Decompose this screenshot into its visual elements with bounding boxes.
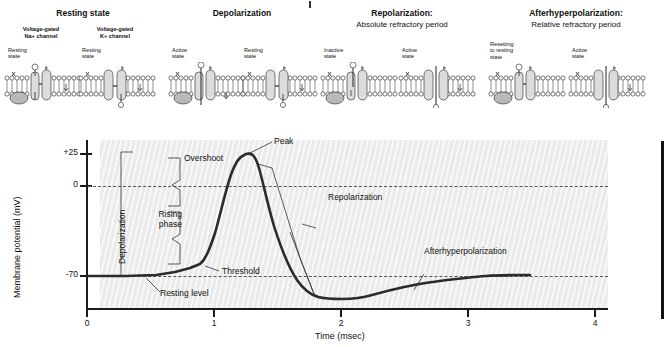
panel-subtitle: Absolute refractory period xyxy=(318,19,486,30)
channel-name-k: Voltage-gated K+ channel xyxy=(82,26,148,39)
membrane-diagram-na xyxy=(320,62,398,108)
page-edge-bar xyxy=(661,141,664,319)
membrane-diagram-na xyxy=(488,62,566,108)
state-label-k: Active state xyxy=(572,47,587,60)
panel-resting-state: Resting state Voltage-gated Na+ channel … xyxy=(0,0,166,128)
state-label-na: Inactive state xyxy=(324,47,343,60)
panel-title: Resting state xyxy=(0,8,166,19)
state-label-na: Active state xyxy=(172,47,187,60)
curve-and-annotation-layer xyxy=(0,128,666,347)
state-label-na: Resetting to resting state xyxy=(490,41,514,60)
membrane-diagram-na xyxy=(168,62,246,108)
state-label-k: Resting state xyxy=(244,47,263,60)
annotation-peak: Peak xyxy=(274,136,293,146)
channel-name-na: Voltage-gated Na+ channel xyxy=(8,26,74,39)
annotation-overshoot: Overshoot xyxy=(184,153,223,163)
state-label-k: Resting state xyxy=(82,47,101,60)
panel-title: Depolarization xyxy=(166,8,318,19)
annotation-repolarization: Repolarization xyxy=(328,192,382,202)
membrane-diagram-k xyxy=(78,62,156,108)
annotation-resting-level: Resting level xyxy=(160,288,209,298)
panel-afterhyperpolarization: Afterhyperpolarization: Relative refract… xyxy=(486,0,666,128)
membrane-diagram-k xyxy=(568,62,646,108)
annotation-threshold: Threshold xyxy=(222,266,260,276)
action-potential-chart: Membrane potential (mV) +25 0 -70 0 1 2 … xyxy=(0,128,666,347)
state-label-k: Active state xyxy=(402,47,417,60)
panel-subtitle: Relative refractory period xyxy=(486,19,666,30)
state-label-na: Resting state xyxy=(8,47,27,60)
membrane-diagram-k xyxy=(398,62,476,108)
annotation-depolarization: Depolarization xyxy=(117,210,127,264)
membrane-diagram-na xyxy=(4,62,82,108)
membrane-diagram-k xyxy=(240,62,318,108)
annotation-afterhyperpolarization: Afterhyperpolarization xyxy=(424,246,507,256)
panel-title: Repolarization: xyxy=(318,8,486,19)
annotation-rising-phase: Rising phase xyxy=(138,209,182,229)
channel-state-panels: Resting state Voltage-gated Na+ channel … xyxy=(0,0,666,128)
panel-repolarization: Repolarization: Absolute refractory peri… xyxy=(318,0,486,128)
panel-depolarization: Depolarization Active state Resting stat… xyxy=(166,0,318,128)
panel-title: Afterhyperpolarization: xyxy=(486,8,666,19)
